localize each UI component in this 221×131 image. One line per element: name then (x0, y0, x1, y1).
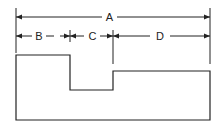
stepped-block-outline (16, 55, 210, 120)
stepped-block-diagram: A B C D (0, 0, 221, 131)
dimension-label-d: D (156, 30, 164, 42)
dimension-label-c: C (89, 30, 97, 42)
dimension-label-b: B (35, 30, 42, 42)
dimension-label-a: A (106, 11, 114, 23)
